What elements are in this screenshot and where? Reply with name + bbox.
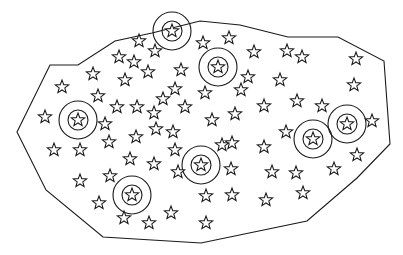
star-icon [347, 78, 360, 91]
star-icon [156, 92, 169, 105]
star-icon [241, 70, 254, 83]
star-icon [92, 196, 105, 209]
star-icon [168, 143, 181, 156]
star-icon [290, 94, 303, 107]
star-icon [132, 34, 145, 47]
star-icon [147, 157, 160, 170]
circled-star [113, 176, 151, 214]
star-icon [327, 162, 340, 175]
star-icon [279, 125, 292, 138]
star-icon [168, 82, 181, 95]
star-icon [265, 165, 278, 178]
star-icon [280, 44, 293, 57]
star-icon [38, 110, 51, 123]
star-icon [166, 125, 179, 138]
star-icon [73, 174, 86, 187]
star-icon [211, 60, 224, 73]
star-icon [222, 31, 235, 44]
star-icon [91, 89, 104, 102]
star-icon [273, 73, 286, 86]
star-icon [130, 100, 143, 113]
star-icon [289, 166, 302, 179]
star-icon [110, 100, 123, 113]
star-icon [123, 152, 136, 165]
star-icon [365, 114, 378, 127]
star-icon [165, 24, 178, 37]
star-icon [118, 73, 131, 86]
star-icon [149, 122, 162, 135]
star-icon [55, 80, 68, 93]
star-icon [174, 63, 187, 76]
star-icon [171, 165, 184, 178]
star-icon [194, 158, 207, 171]
star-icon [257, 99, 270, 112]
star-icon [257, 140, 270, 153]
star-icon [349, 52, 362, 65]
star-icon [125, 188, 138, 201]
star-icon [295, 50, 308, 63]
star-icon [247, 45, 260, 58]
star-markers [38, 31, 378, 229]
star-icon [86, 67, 99, 80]
star-icon [71, 113, 84, 126]
star-icon [73, 143, 86, 156]
star-icon [306, 132, 319, 145]
star-icon [199, 189, 212, 202]
star-icon [98, 117, 111, 130]
star-icon [350, 148, 363, 161]
circled-star [199, 48, 237, 86]
star-icon [117, 211, 130, 224]
star-icon [141, 65, 154, 78]
star-icon [147, 106, 160, 119]
star-icon [196, 36, 209, 49]
star-icon [315, 99, 328, 112]
star-icon [215, 138, 228, 151]
star-icon [224, 162, 237, 175]
circled-star [59, 101, 97, 139]
star-icon [103, 169, 116, 182]
diagram-canvas [0, 0, 403, 255]
star-icon [178, 100, 191, 113]
circled-star [182, 146, 220, 184]
star-icon [164, 206, 177, 219]
star-icon [198, 86, 211, 99]
star-icon [205, 113, 218, 126]
star-icon [142, 216, 155, 229]
circled-star [328, 105, 366, 143]
star-icon [234, 83, 247, 96]
star-icon [127, 55, 140, 68]
star-icon [129, 130, 142, 143]
circled-star [294, 120, 332, 158]
star-icon [199, 216, 212, 229]
star-icon [296, 186, 309, 199]
star-icon [47, 143, 60, 156]
star-icon [228, 107, 241, 120]
star-icon [340, 117, 353, 130]
star-icon [225, 188, 238, 201]
star-icon [112, 50, 125, 63]
star-icon [102, 135, 115, 148]
star-icon [259, 193, 272, 206]
